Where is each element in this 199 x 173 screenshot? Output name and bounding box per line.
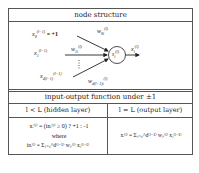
input-x0-label: x0(l−1) = +1 — [32, 31, 58, 37]
output-sum-formula: xᵢ⁽ˡ⁾ = Σⱼ₌₀^d⁽ˡ⁻¹⁾ wⱼᵢ⁽ˡ⁾ xⱼ⁽ˡ⁻¹⁾ — [109, 133, 193, 139]
io-function-title: input-output function under ±1 — [9, 94, 192, 101]
weight-w0i-label: w0i(l) — [97, 28, 108, 34]
weight-wdi-label: wd(l−1)i(l) — [88, 78, 107, 84]
hidden-input-sum-formula: inᵢ⁽ˡ⁾ = Σⱼ₌₀^d⁽ˡ⁻¹⁾ wⱼᵢ⁽ˡ⁾ xⱼ⁽ˡ⁻¹⁾ — [11, 143, 105, 149]
divider — [9, 103, 192, 104]
edge-d-arrow — [73, 59, 108, 77]
input-xd-label: xd(l−1)(l−1) — [40, 73, 62, 79]
hidden-layer-header: l < L (hidden layer) — [9, 106, 107, 114]
divider — [9, 91, 192, 92]
node-table: node structure x0(l−1) = +1 w0i(l) — [8, 8, 193, 155]
output-layer-header: l = L (output layer) — [108, 106, 193, 114]
output-x-label: xi(l) — [131, 46, 139, 52]
divider — [9, 89, 192, 90]
hidden-activation-formula: xᵢ⁽ˡ⁾ = (inᵢ⁽ˡ⁾ ≥ 0) ? +1 : -1 — [13, 123, 105, 129]
divider — [9, 117, 192, 118]
weight-w1i-label: w1i(l) — [71, 46, 82, 52]
input-x1-label: x1(l−1) — [34, 50, 47, 56]
node-diagram: x0(l−1) = +1 w0i(l) x1(l−1) w1i(l) xd(l−… — [9, 22, 192, 89]
node-s-label: si(l) — [112, 52, 119, 58]
node-structure-title: node structure — [9, 12, 192, 19]
hidden-where-label: where — [13, 133, 105, 139]
column-divider — [107, 103, 108, 155]
